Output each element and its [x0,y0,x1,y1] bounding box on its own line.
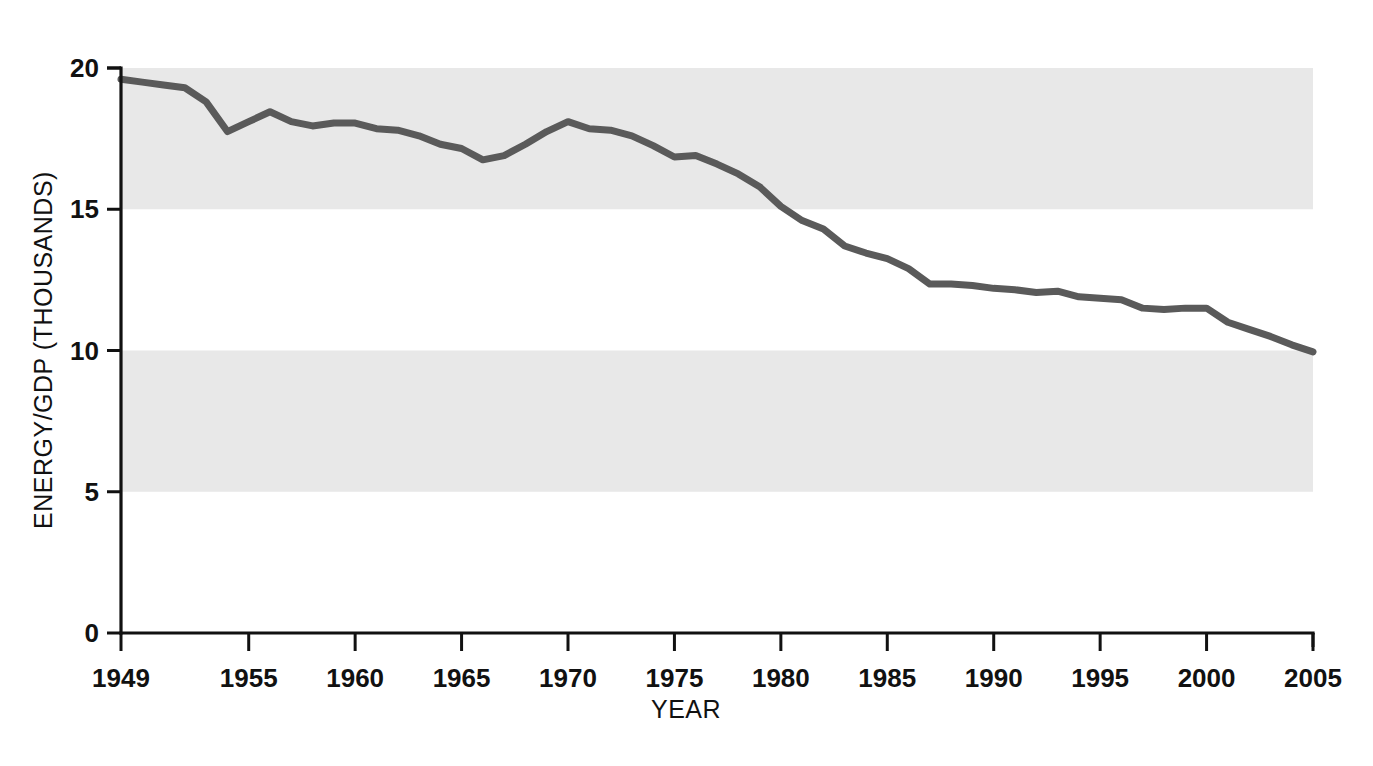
y-axis-title: ENERGY/GDP (THOUSANDS) [29,171,57,529]
background-band-1 [121,351,1313,492]
chart-figure: 1949195519601965197019751980198519901995… [0,0,1373,766]
x-tick-label-1960: 1960 [326,663,384,693]
y-axis-ticks: 05101520 [70,53,121,648]
x-axis-ticks: 1949195519601965197019751980198519901995… [92,633,1342,693]
x-tick-label-1955: 1955 [220,663,278,693]
y-tick-label-15: 15 [70,194,99,224]
background-band-0 [121,68,1313,209]
x-tick-label-2005: 2005 [1284,663,1342,693]
x-tick-label-1985: 1985 [858,663,916,693]
line-chart: 1949195519601965197019751980198519901995… [0,0,1373,766]
y-tick-label-20: 20 [70,53,99,83]
x-tick-label-1995: 1995 [1071,663,1129,693]
y-tick-label-0: 0 [85,618,99,648]
x-tick-label-1990: 1990 [965,663,1023,693]
x-tick-label-1965: 1965 [433,663,491,693]
background-bands [121,68,1313,492]
y-tick-label-5: 5 [85,477,99,507]
x-tick-label-1980: 1980 [752,663,810,693]
x-tick-label-1970: 1970 [539,663,597,693]
x-tick-label-1949: 1949 [92,663,150,693]
y-tick-label-10: 10 [70,336,99,366]
x-tick-label-1975: 1975 [646,663,704,693]
x-tick-label-2000: 2000 [1178,663,1236,693]
x-axis-title: YEAR [651,695,721,723]
